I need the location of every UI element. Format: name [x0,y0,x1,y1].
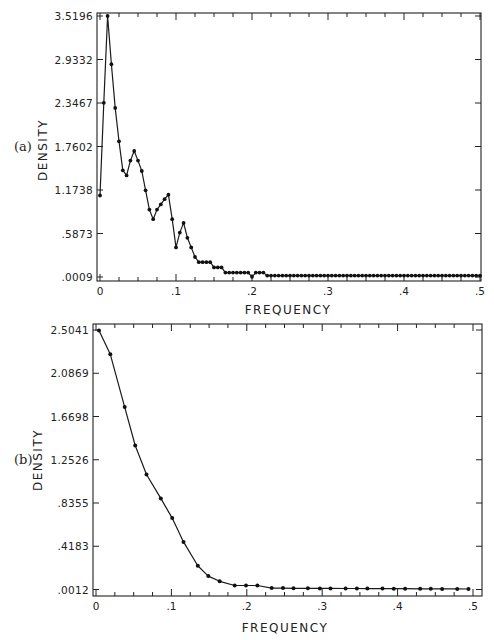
data-point [133,444,137,448]
data-point [425,274,429,278]
data-point [159,203,163,207]
y-tick-label: .0012 [57,584,89,596]
data-point [273,274,277,278]
data-point [136,159,140,163]
spectral-density-figure: (a) DENSITY FREQUENCY 3.51962.93322.3467… [0,0,494,640]
x-tick-label: .1 [171,285,181,297]
data-point [97,328,101,332]
y-tick-labels-b: 2.50412.08691.66981.2526.8355.4183.0012 [50,324,482,596]
data-point [440,274,444,278]
data-point [417,274,421,278]
data-point [170,516,174,520]
y-tick-label: 1.7602 [54,141,93,153]
data-point [227,271,231,275]
y-axis-title-b: DENSITY [31,429,45,491]
data-point [402,274,406,278]
density-line [100,16,480,277]
data-point [281,274,285,278]
data-point [296,274,300,278]
x-tick-label: .1 [166,600,176,612]
data-point [163,197,167,201]
data-point [193,255,197,259]
data-point [455,587,459,591]
data-point [360,274,364,278]
data-point [110,62,114,66]
data-point [218,579,222,583]
data-point [387,274,391,278]
x-tick-labels-a: 0.1.2.3.4.5 [97,13,485,297]
data-point [303,274,307,278]
data-point [392,587,396,591]
data-point [410,274,414,278]
y-tick-label: 2.0869 [50,367,89,379]
data-point [121,168,125,172]
data-point [463,274,467,278]
data-point [151,217,155,221]
data-point [246,271,250,275]
density-series-b [97,328,471,591]
data-point [254,271,258,275]
y-tick-label: .5873 [61,228,93,240]
data-point [455,274,459,278]
data-point [220,266,224,270]
y-tick-label: 2.3467 [54,97,93,109]
data-point [167,193,171,197]
data-point [243,271,247,275]
data-point [338,274,342,278]
data-point [448,274,452,278]
data-point [379,274,383,278]
data-point [125,174,129,178]
data-point [106,14,110,18]
data-point [300,274,304,278]
data-point [189,246,193,250]
data-point [288,274,292,278]
data-point [212,266,216,270]
panel-label-b: (b) [14,452,32,467]
data-point [233,584,237,588]
x-tick-label: .5 [475,285,485,297]
data-point [315,274,319,278]
data-point [292,586,296,590]
data-point [311,274,315,278]
data-point [326,274,330,278]
data-point [372,274,376,278]
data-point [395,274,399,278]
y-tick-label: .8355 [57,497,89,509]
data-point [197,260,201,264]
data-point [318,586,322,590]
data-point [391,274,395,278]
data-point [231,271,235,275]
data-point [284,274,288,278]
data-point [174,246,178,250]
x-tick-label: .3 [323,285,333,297]
y-tick-label: 1.2526 [50,454,89,466]
data-point [467,587,471,591]
data-point [182,221,186,225]
data-point [182,540,186,544]
x-tick-label: .5 [468,600,478,612]
data-point [467,274,471,278]
data-point [108,352,112,356]
y-tick-label: .4183 [57,540,89,552]
data-point [357,274,361,278]
density-line [99,330,469,589]
data-point [216,266,220,270]
data-point [368,274,372,278]
density-series-a [98,14,482,279]
data-point [292,274,296,278]
x-tick-label: .3 [317,600,327,612]
y-tick-label: 2.5041 [50,324,89,336]
data-point [403,587,407,591]
data-point [208,260,212,264]
data-point [353,274,357,278]
data-point [148,208,152,212]
plot-frame-a [97,13,481,281]
data-point [452,274,456,278]
data-point [258,271,262,275]
data-point [102,101,106,105]
data-point [349,274,353,278]
y-tick-label: 2.9332 [54,54,93,66]
y-tick-label: 1.1738 [54,184,93,196]
data-point [429,587,433,591]
data-point [265,274,269,278]
